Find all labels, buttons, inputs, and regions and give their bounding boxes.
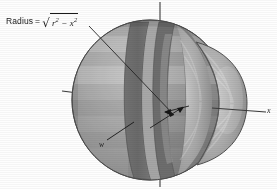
radius-label: Radius=√r2 − x2 bbox=[6, 13, 78, 29]
square-root-expression: √r2 − x2 bbox=[42, 13, 78, 29]
sqrt-icon: √ bbox=[42, 18, 50, 28]
equals-sign: = bbox=[35, 16, 40, 26]
minus-sign: − bbox=[61, 18, 67, 28]
math-figure-sphere-slab: Radius=√r2 − x2 x w bbox=[0, 0, 277, 189]
x-axis-label: x bbox=[267, 106, 271, 115]
slab-width-label: w bbox=[99, 140, 104, 149]
radius-label-text: Radius bbox=[6, 16, 33, 26]
radicand: r2 − x2 bbox=[50, 13, 78, 29]
radicand-x-exponent: 2 bbox=[74, 16, 77, 23]
radicand-r-exponent: 2 bbox=[56, 16, 59, 23]
